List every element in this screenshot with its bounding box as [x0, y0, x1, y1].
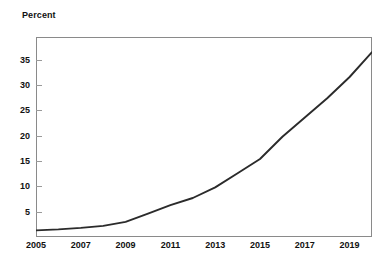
y-tick-label: 10: [10, 181, 30, 191]
y-tick-label: 35: [10, 55, 30, 65]
x-tick-label: 2009: [116, 240, 136, 250]
line-chart: Percent 5101520253035 200520072009201120…: [0, 0, 387, 272]
x-tick-label: 2017: [295, 240, 315, 250]
series-line-percent: [36, 37, 372, 237]
x-tick-label: 2011: [161, 240, 181, 250]
x-tick-label: 2007: [71, 240, 91, 250]
y-tick-label: 25: [10, 105, 30, 115]
y-tick-label: 15: [10, 156, 30, 166]
x-tick-label: 2019: [340, 240, 360, 250]
x-tick-label: 2015: [250, 240, 270, 250]
y-tick-label: 30: [10, 80, 30, 90]
y-axis-title: Percent: [22, 10, 56, 20]
series-polyline: [36, 52, 372, 230]
x-tick-label: 2005: [26, 240, 46, 250]
y-tick-label: 5: [10, 207, 30, 217]
x-tick-label: 2013: [205, 240, 225, 250]
y-tick-label: 20: [10, 131, 30, 141]
